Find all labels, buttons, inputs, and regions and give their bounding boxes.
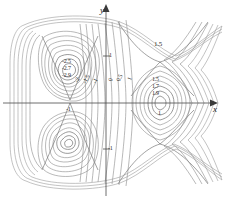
separatrix-upper-right-saddle — [118, 22, 208, 96]
y-axis-tick-label-minus-1: -1 — [108, 145, 113, 151]
contour-label-minus-2-5: -2.5 — [62, 58, 71, 64]
contour-label-minus-1-saddle: -1 — [66, 106, 71, 112]
contour-label-1-5-saddle: 1.5 — [154, 41, 162, 48]
contour-group-edge-bundle — [24, 16, 222, 189]
separatrix-lower-right-saddle — [118, 110, 208, 184]
contour-label-1-9: 1.9 — [152, 90, 159, 96]
x-axis-label: x — [213, 105, 217, 114]
contour-plot-figure: y x -2.5 -2.7 -2.9 -2 -1.5 -1 0 0.5 1 1.… — [0, 0, 225, 205]
contour-group-lower-left-minimum — [38, 112, 98, 177]
y-axis-label: y — [100, 6, 104, 15]
contour-label-1-7: 1.7 — [152, 83, 159, 89]
contour-plot-canvas — [0, 0, 225, 205]
contour-label-minus-2-7: -2.7 — [62, 65, 71, 71]
contour-label-1-5-max: 1.5 — [152, 76, 159, 82]
contour-label-minus-2-9: -2.9 — [62, 72, 71, 78]
y-axis-tick-label-1: 1 — [109, 52, 112, 58]
contour-label-1-max-center: 1 — [158, 110, 161, 116]
